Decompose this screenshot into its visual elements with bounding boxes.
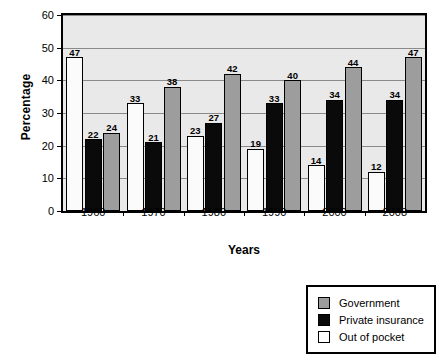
x-tick-mark bbox=[184, 211, 185, 216]
bar-private-insurance-2008: 34 bbox=[386, 100, 403, 211]
x-tick-mark bbox=[244, 211, 245, 216]
bar-private-insurance-1970: 21 bbox=[145, 142, 162, 211]
bar-value-label: 14 bbox=[311, 156, 322, 166]
bar-value-label: 42 bbox=[227, 64, 238, 74]
bar-value-label: 38 bbox=[167, 77, 178, 87]
legend-item-private-insurance: Private insurance bbox=[318, 311, 428, 328]
bar-government-1960: 24 bbox=[103, 133, 120, 211]
y-axis-label: 10 bbox=[42, 172, 54, 184]
bar-value-label: 47 bbox=[69, 48, 80, 58]
bar-value-label: 34 bbox=[390, 90, 401, 100]
bar-out-of-pocket-1960: 47 bbox=[66, 57, 83, 211]
bar-value-label: 33 bbox=[130, 94, 141, 104]
bar-value-label: 19 bbox=[250, 139, 261, 149]
y-tick-mark bbox=[57, 211, 62, 212]
bar-government-2000: 44 bbox=[345, 67, 362, 211]
y-tick-mark bbox=[57, 146, 62, 147]
bar-value-label: 47 bbox=[408, 48, 419, 58]
bar-value-label: 22 bbox=[88, 130, 99, 140]
bar-chart: Percentage 01020304050604722243321382327… bbox=[0, 0, 444, 358]
y-axis-label: 50 bbox=[42, 42, 54, 54]
y-axis-label: 30 bbox=[42, 107, 54, 119]
y-axis-label: 20 bbox=[42, 140, 54, 152]
legend-item-government: Government bbox=[318, 294, 428, 311]
legend-item-out-of-pocket: Out of pocket bbox=[318, 328, 428, 345]
y-tick-mark bbox=[57, 178, 62, 179]
bar-out-of-pocket-1980: 23 bbox=[187, 136, 204, 211]
bar-private-insurance-1980: 27 bbox=[205, 123, 222, 211]
bar-value-label: 12 bbox=[371, 162, 382, 172]
bar-private-insurance-1990: 33 bbox=[266, 103, 283, 211]
x-axis-label-1990: 1990 bbox=[262, 206, 286, 218]
gridline-30 bbox=[63, 113, 425, 114]
bar-value-label: 21 bbox=[148, 133, 159, 143]
bar-value-label: 34 bbox=[329, 90, 340, 100]
x-axis-label-1980: 1980 bbox=[202, 206, 226, 218]
y-tick-mark bbox=[57, 113, 62, 114]
y-axis-label: 40 bbox=[42, 74, 54, 86]
gridline-60 bbox=[63, 15, 425, 16]
x-tick-mark bbox=[365, 211, 366, 216]
x-tick-mark bbox=[304, 211, 305, 216]
y-axis-label: 0 bbox=[48, 205, 54, 217]
x-tick-mark bbox=[123, 211, 124, 216]
legend-swatch-government bbox=[318, 297, 330, 309]
bar-out-of-pocket-1970: 33 bbox=[127, 103, 144, 211]
bar-government-1980: 42 bbox=[224, 74, 241, 211]
x-axis-label-2000: 2000 bbox=[322, 206, 346, 218]
gridline-50 bbox=[63, 48, 425, 49]
legend-label: Government bbox=[339, 297, 400, 309]
x-axis-title: Years bbox=[61, 243, 427, 257]
bar-government-2008: 47 bbox=[405, 57, 422, 211]
bar-government-1990: 40 bbox=[284, 80, 301, 211]
bar-government-1970: 38 bbox=[164, 87, 181, 211]
chart-legend: GovernmentPrivate insuranceOut of pocket bbox=[306, 285, 436, 354]
x-axis-label-1960: 1960 bbox=[81, 206, 105, 218]
y-tick-mark bbox=[57, 80, 62, 81]
legend-swatch-out-of-pocket bbox=[318, 331, 330, 343]
bar-value-label: 24 bbox=[106, 123, 117, 133]
x-axis-label-2008: 2008 bbox=[383, 206, 407, 218]
x-axis-label-1970: 1970 bbox=[141, 206, 165, 218]
y-tick-mark bbox=[57, 15, 62, 16]
y-axis-title: Percentage bbox=[19, 47, 33, 167]
legend-swatch-private-insurance bbox=[318, 314, 330, 326]
y-tick-mark bbox=[57, 48, 62, 49]
bar-private-insurance-2000: 34 bbox=[326, 100, 343, 211]
bar-out-of-pocket-1990: 19 bbox=[247, 149, 264, 211]
legend-label: Out of pocket bbox=[339, 331, 404, 343]
bar-out-of-pocket-2000: 14 bbox=[308, 165, 325, 211]
plot-area: 0102030405060472224332138232742193340143… bbox=[61, 13, 427, 213]
legend-label: Private insurance bbox=[339, 314, 424, 326]
bar-value-label: 27 bbox=[209, 113, 220, 123]
y-axis-label: 60 bbox=[42, 9, 54, 21]
bar-value-label: 33 bbox=[269, 94, 280, 104]
bar-value-label: 40 bbox=[287, 71, 298, 81]
bar-private-insurance-1960: 22 bbox=[85, 139, 102, 211]
bar-value-label: 23 bbox=[190, 126, 201, 136]
bar-value-label: 44 bbox=[348, 58, 359, 68]
gridline-40 bbox=[63, 80, 425, 81]
